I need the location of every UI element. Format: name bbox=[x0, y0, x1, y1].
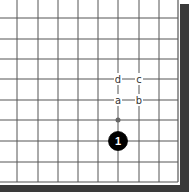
stone-move-number: 1 bbox=[115, 135, 121, 147]
board-border-bottom bbox=[0, 185, 189, 192]
point-label-c: c bbox=[136, 73, 141, 86]
board-background bbox=[0, 0, 194, 192]
stones: 1 bbox=[109, 132, 128, 151]
small-dot-marker bbox=[116, 118, 121, 123]
markers bbox=[116, 118, 121, 123]
point-label-d: d bbox=[115, 73, 121, 86]
point-label-b: b bbox=[136, 94, 142, 107]
point-label-a: a bbox=[115, 94, 121, 107]
go-board: dcab 1 bbox=[0, 0, 194, 192]
board-border-right bbox=[180, 4, 189, 192]
